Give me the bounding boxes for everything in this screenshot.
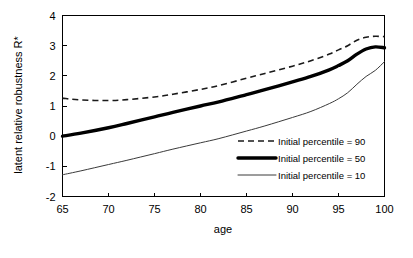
x-tick-label: 75: [148, 203, 160, 215]
y-tick-label: 0: [49, 130, 55, 142]
x-axis-title: age: [214, 223, 232, 235]
latent-relative-robustness-line-chart: 43210-1-2 65707580859095100 age latent r…: [0, 0, 413, 258]
y-axis: 43210-1-2: [46, 10, 67, 203]
series-line-thick-solid: [63, 47, 385, 136]
x-tick-label: 80: [194, 203, 206, 215]
x-tick-label: 100: [375, 203, 393, 215]
legend-label: Initial percentile = 90: [278, 136, 365, 147]
chart-container: 43210-1-2 65707580859095100 age latent r…: [0, 0, 413, 258]
y-tick-label: -1: [46, 160, 56, 172]
x-tick-label: 65: [56, 203, 68, 215]
y-tick-label: 3: [49, 40, 55, 52]
legend-label: Initial percentile = 50: [278, 153, 365, 164]
y-tick-label: 1: [49, 100, 55, 112]
y-tick-label: 4: [49, 10, 55, 22]
y-tick-label: 2: [49, 70, 55, 82]
y-tick-label: -2: [46, 191, 56, 203]
legend-item: Initial percentile = 50: [238, 153, 365, 164]
x-tick-label: 90: [286, 203, 298, 215]
x-axis: 65707580859095100: [56, 193, 393, 215]
chart-legend: Initial percentile = 90Initial percentil…: [238, 136, 365, 181]
legend-item: Initial percentile = 90: [238, 136, 365, 147]
legend-label: Initial percentile = 10: [278, 170, 365, 181]
legend-item: Initial percentile = 10: [238, 170, 365, 181]
x-tick-label: 95: [332, 203, 344, 215]
x-tick-label: 70: [102, 203, 114, 215]
x-tick-label: 85: [240, 203, 252, 215]
y-axis-title: latent relative robustness R*: [12, 36, 24, 174]
